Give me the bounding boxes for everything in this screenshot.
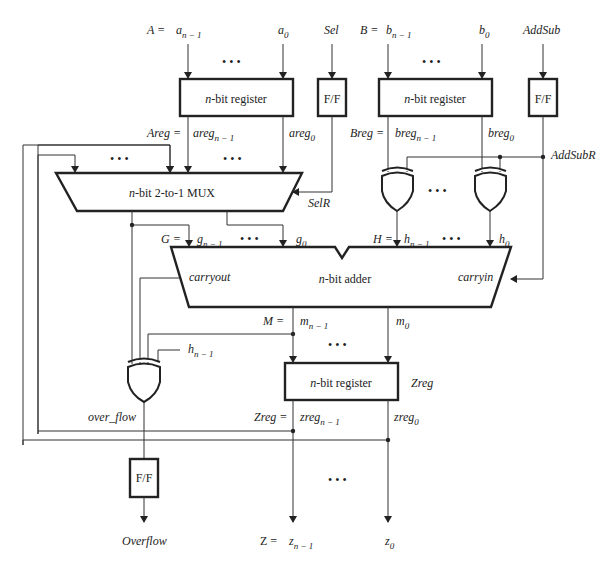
- svg-text:n-bit 2-to-1 MUX: n-bit 2-to-1 MUX: [129, 186, 215, 200]
- svg-text:n-bit register: n-bit register: [404, 92, 466, 106]
- m-msb-to-xor-wire: [148, 334, 293, 364]
- g-eq-label: G =: [161, 232, 181, 246]
- ellipsis-g: • • •: [240, 232, 259, 246]
- ellipsis-a: • • •: [222, 55, 241, 69]
- addsub-label: AddSub: [522, 23, 560, 37]
- b-msb-label: bn − 1: [386, 23, 412, 40]
- a-eq-label: A =: [146, 23, 165, 37]
- carryout-wire: [140, 278, 180, 364]
- over-flow-label: over_flow: [88, 410, 136, 424]
- ellipsis-mux-right: • • •: [223, 152, 242, 166]
- feedback-lsb-tap: [23, 440, 388, 445]
- flip-flop-sel: F/F: [318, 79, 346, 116]
- breg-msb-label: bregn − 1: [395, 126, 436, 143]
- mux-2-to-1: n-bit 2-to-1 MUX: [56, 173, 302, 211]
- junction-dot: [291, 429, 295, 433]
- svg-text:n-bit adder: n-bit adder: [319, 272, 371, 286]
- xor-gate-lsb: [475, 168, 506, 212]
- selr-label: SelR: [308, 196, 331, 210]
- input-a-labels: A = an − 1 a0: [146, 23, 289, 40]
- z-msb-label: zn − 1: [288, 534, 313, 551]
- zreg-name-label: Zreg: [411, 376, 433, 390]
- sel-label: Sel: [324, 23, 339, 37]
- z-eq-label: Z =: [260, 534, 277, 548]
- adder-subtractor-circuit-diagram: A = an − 1 a0 Sel B = bn − 1 b0 AddSub •…: [0, 0, 614, 566]
- carryin-label: carryin: [458, 270, 493, 284]
- h-msb-to-xor-wire: [158, 350, 180, 362]
- zreg-msb-label: zregn − 1: [299, 410, 340, 427]
- svg-text:F/F: F/F: [324, 92, 341, 106]
- b-eq-label: B =: [360, 23, 378, 37]
- addsubr-bus: [407, 157, 543, 172]
- breg-lsb-label: breg0: [488, 126, 515, 143]
- overflow-label: Overflow: [122, 534, 167, 548]
- addsubr-label: AddSubR: [550, 148, 596, 162]
- input-b-labels: B = bn − 1 b0: [360, 23, 490, 40]
- carryin-wire: [511, 157, 543, 279]
- svg-text:F/F: F/F: [535, 92, 552, 106]
- register-a: n-bit register: [180, 79, 293, 116]
- b-lsb-label: b0: [479, 23, 490, 40]
- areg-lsb-label: areg0: [289, 126, 316, 143]
- xor-gate-overflow: [128, 359, 160, 403]
- m-lsb-label: m0: [396, 314, 410, 331]
- svg-text:n-bit register: n-bit register: [205, 92, 267, 106]
- ellipsis-z: • • •: [328, 473, 347, 487]
- xor-gate-msb: [382, 168, 413, 212]
- register-z: n-bit register: [285, 363, 398, 400]
- ellipsis-h: • • •: [442, 232, 461, 246]
- h-xor-label: hn − 1: [188, 342, 214, 359]
- m-eq-label: M =: [262, 314, 284, 328]
- ellipsis-xor: • • •: [428, 184, 447, 198]
- ellipsis-mux-left: • • •: [110, 152, 129, 166]
- areg-eq-label: Areg =: [146, 126, 181, 140]
- junction-dot: [498, 155, 502, 159]
- n-bit-adder: n-bit adder carryout carryin: [171, 247, 511, 307]
- m-msb-label: mn − 1: [300, 314, 328, 331]
- zreg-eq-label: Zreg =: [254, 410, 287, 424]
- a-lsb-label: a0: [278, 23, 289, 40]
- svg-text:F/F: F/F: [136, 471, 153, 485]
- ellipsis-b: • • •: [422, 55, 441, 69]
- areg-msb-label: aregn − 1: [193, 126, 234, 143]
- h-eq-label: H =: [372, 232, 393, 246]
- carryout-label: carryout: [189, 270, 231, 284]
- z-lsb-label: z0: [384, 534, 395, 551]
- ellipsis-m: • • •: [328, 338, 347, 352]
- flip-flop-overflow: F/F: [130, 459, 158, 497]
- svg-text:n-bit register: n-bit register: [310, 376, 372, 390]
- zreg-lsb-label: zreg0: [393, 410, 419, 427]
- flip-flop-addsub: F/F: [529, 79, 557, 116]
- a-msb-label: an − 1: [176, 23, 202, 40]
- junction-dot: [386, 438, 390, 442]
- breg-eq-label: Breg =: [350, 126, 384, 140]
- register-b: n-bit register: [379, 79, 492, 116]
